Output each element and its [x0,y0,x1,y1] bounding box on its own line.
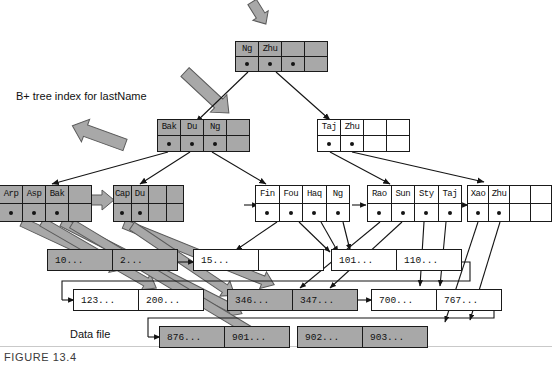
data-block-4-record-1: 200... [138,289,204,311]
leaf-node-5-key-row: XaoZhu [468,186,552,204]
data-block-3[interactable]: 101...110... [332,249,462,271]
leaf-node-4-key-0: Rao [367,185,392,204]
root-key-2 [281,41,305,57]
internal-node-right-key-1: Zhu [340,119,364,136]
leaf-node-4-pointer-2 [414,203,439,222]
data-block-7-record-0: 876... [159,326,225,348]
leaf-node-2[interactable]: CapDu [114,186,184,222]
leaf-node-2-key-1: Du [131,185,150,204]
root-pointer-3 [304,56,328,72]
data-block-6[interactable]: 700...767... [372,289,502,311]
leaf-node-2-pointer-3 [166,203,185,222]
leaf-node-2-key-3 [166,185,185,204]
leaf-node-5-pointer-3 [530,203,552,222]
leaf-node-3-pointer-2 [302,203,327,222]
data-block-5-record-0: 346... [227,289,293,311]
leaf-node-4-pointer-1 [391,203,416,222]
leaf-node-1-key-row: ArpAspBak [0,186,92,204]
internal-node-right-pointer-1 [340,135,364,152]
data-block-1-record-0: 10... [47,249,113,271]
leaf-node-1-pointer-2 [45,203,69,222]
data-block-4[interactable]: 123...200... [74,289,204,311]
data-block-1-record-1: 2... [112,249,178,271]
data-block-8-record-0: 902... [297,326,363,348]
data-block-2-record-0: 15... [193,249,259,271]
leaf-node-3-key-row: FinFouHaqNg [256,186,350,204]
leaf-node-1-pointer-1 [22,203,46,222]
internal-node-right-key-0: Taj [317,119,341,136]
internal-node-left-key-row: BakDuNg [158,120,250,136]
leaf-node-3-pointer-0 [255,203,280,222]
leaf-node-3-key-1: Fou [279,185,304,204]
figure-canvas: B+ tree index for lastName Data file NgZ… [0,0,552,367]
leaf-node-4-key-3: Taj [438,185,463,204]
internal-node-right-pointer-0 [317,135,341,152]
leaf-node-1-key-3 [68,185,92,204]
leaf-node-2-pointer-1 [131,203,150,222]
leaf-node-4-key-1: Sun [391,185,416,204]
leaf-node-2-pointer-2 [148,203,167,222]
data-block-8-record-1: 903... [362,326,428,348]
leaf-node-3-key-3: Ng [326,185,351,204]
data-block-2-record-1 [258,249,324,271]
root-key-3 [304,41,328,57]
internal-node-right-pointer-2 [363,135,387,152]
leaf-node-4-pointer-0 [367,203,392,222]
internal-node-left-key-1: Du [180,119,204,136]
data-block-6-record-0: 700... [371,289,437,311]
internal-node-left-key-2: Ng [203,119,227,136]
root-pointer-2 [281,56,305,72]
data-block-3-record-0: 101... [331,249,397,271]
data-block-5[interactable]: 346...347... [228,289,358,311]
leaf-node-5[interactable]: XaoZhu [468,186,552,222]
root-pointer-row [236,57,328,72]
data-block-7-record-1: 901... [224,326,290,348]
figure-caption: FIGURE 13.4 [4,351,77,363]
data-block-5-record-1: 347... [292,289,358,311]
data-block-4-record-0: 123... [73,289,139,311]
root-key-row: NgZhu [236,42,328,57]
data-file-label: Data file [70,328,110,340]
data-block-2[interactable]: 15... [194,249,324,271]
leaf-node-1-pointer-row [0,204,92,222]
root-node[interactable]: NgZhu [236,42,328,72]
leaf-node-1-key-0: Arp [0,185,23,204]
leaf-node-2-pointer-0 [113,203,132,222]
leaf-node-4[interactable]: RaoSunStyTaj [368,186,462,222]
internal-node-left-pointer-row [158,136,250,152]
leaf-node-2-pointer-row [114,204,184,222]
index-label: B+ tree index for lastName [16,90,147,102]
leaf-node-2-key-row: CapDu [114,186,184,204]
internal-node-right-key-2 [363,119,387,136]
leaf-node-3[interactable]: FinFouHaqNg [256,186,350,222]
leaf-node-1[interactable]: ArpAspBak [0,186,92,222]
internal-node-left-pointer-2 [203,135,227,152]
internal-node-left[interactable]: BakDuNg [158,120,250,152]
data-block-8[interactable]: 902...903... [298,326,428,348]
leaf-node-4-pointer-row [368,204,462,222]
leaf-node-1-pointer-0 [0,203,23,222]
internal-node-right-key-row: TajZhu [318,120,410,136]
leaf-node-3-pointer-1 [279,203,304,222]
leaf-node-5-key-0: Xao [467,185,489,204]
internal-node-left-pointer-1 [180,135,204,152]
internal-node-left-pointer-0 [157,135,181,152]
leaf-node-5-key-3 [530,185,552,204]
leaf-node-5-pointer-1 [488,203,510,222]
data-block-6-record-1: 767... [436,289,502,311]
root-pointer-1 [258,56,282,72]
leaf-node-4-key-2: Sty [414,185,439,204]
internal-node-left-pointer-3 [226,135,250,152]
data-block-7[interactable]: 876...901... [160,326,290,348]
root-key-0: Ng [235,41,259,57]
leaf-node-4-pointer-3 [438,203,463,222]
internal-node-right-key-3 [386,119,410,136]
leaf-node-3-pointer-row [256,204,350,222]
data-block-1[interactable]: 10...2... [48,249,178,271]
internal-node-left-key-0: Bak [157,119,181,136]
internal-node-right[interactable]: TajZhu [318,120,410,152]
leaf-node-1-key-1: Asp [22,185,46,204]
internal-node-right-pointer-3 [386,135,410,152]
leaf-node-5-pointer-0 [467,203,489,222]
leaf-node-2-key-2 [148,185,167,204]
